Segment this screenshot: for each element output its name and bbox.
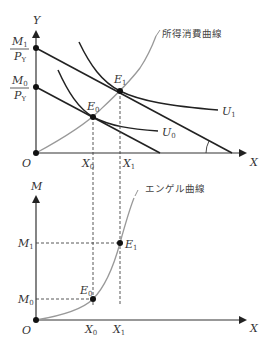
- point-e1: [117, 88, 123, 94]
- indifference-curve-u0: [58, 70, 158, 131]
- label-u0: U0: [162, 126, 176, 140]
- engel-leader-line: [135, 190, 138, 196]
- income-consumption-curve: [36, 36, 156, 153]
- origin-point: [33, 150, 39, 156]
- tick-x0-top: X0: [81, 157, 94, 171]
- x-axis-label-bottom: X: [249, 322, 259, 335]
- icc-label: 所得消費曲線: [162, 28, 222, 39]
- origin-point-bottom: [33, 317, 39, 323]
- slope-angle-arc: [206, 141, 209, 153]
- x-axis-label: X: [249, 156, 259, 169]
- y-axis-label: Y: [33, 14, 42, 27]
- label-e1: E1: [113, 73, 127, 87]
- intercept-m1-point: [33, 45, 39, 51]
- svg-text:M0: M0: [11, 74, 28, 88]
- svg-text:PY: PY: [13, 50, 26, 64]
- point-e0: [90, 114, 96, 120]
- intercept-m1-label: M1 PY: [10, 35, 29, 64]
- tick-x1-bottom: X1: [112, 323, 125, 337]
- origin-label-bottom: O: [22, 324, 31, 337]
- label-e0: E0: [86, 100, 100, 114]
- engel-label: エンゲル曲線: [145, 183, 205, 194]
- income-consumption-engel-diagram: Y X O M1 PY M0 PY E1 E0 U1 U0 X0 X1 所得消費…: [0, 0, 270, 351]
- label-e1-bottom: E1: [124, 238, 138, 252]
- tick-x1-top: X1: [122, 157, 135, 171]
- budget-line-1: [36, 48, 232, 153]
- svg-text:M1: M1: [11, 35, 28, 49]
- icc-leader-line: [156, 30, 160, 36]
- tick-m1: M1: [17, 237, 34, 251]
- m-axis-label: M: [30, 180, 43, 193]
- origin-label: O: [22, 157, 31, 170]
- bottom-graph: M X O M1 M0 E0 E1 X0 X1 エンゲル曲線: [17, 180, 259, 337]
- tick-m0: M0: [17, 293, 34, 307]
- top-graph: Y X O M1 PY M0 PY E1 E0 U1 U0 X0 X1 所得消費…: [10, 14, 259, 305]
- svg-text:PY: PY: [13, 89, 26, 103]
- engel-curve: [36, 198, 134, 320]
- intercept-m0-label: M0 PY: [10, 74, 29, 103]
- label-u1: U1: [222, 105, 236, 119]
- tick-x0-bottom: X0: [84, 323, 97, 337]
- label-e0-bottom: E0: [79, 284, 93, 298]
- point-e1-bottom: [117, 240, 123, 246]
- intercept-m0-point: [33, 84, 39, 90]
